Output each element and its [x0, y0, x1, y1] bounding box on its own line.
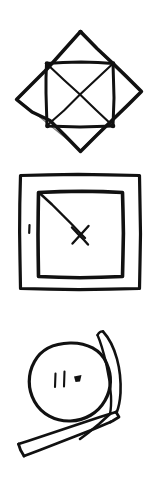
diagonal-line	[40, 194, 85, 239]
figure-diamond-with-inscribed-square: Diamond with inscribed square and crosse…	[0, 0, 158, 160]
figure-circle-with-banner: Circle with interior marks overlaid by a…	[0, 305, 158, 477]
circle-outline	[29, 343, 110, 421]
diamond-outline	[17, 32, 142, 152]
banner-sliver-tip	[98, 331, 104, 335]
interior-tick-left	[55, 374, 56, 388]
diamond-square-drawing	[0, 0, 158, 160]
diamond-apex-blot	[78, 30, 82, 34]
corner-blot-bottom-right	[111, 124, 116, 129]
interior-tick-right	[64, 372, 65, 387]
corner-blot-top-left	[45, 61, 50, 66]
diamond-outline-second-pass	[18, 33, 140, 150]
corner-blot-bottom-left	[45, 124, 50, 129]
figure-nested-squares-with-diagonal: Nested squares with diagonal and X mark	[0, 160, 158, 305]
interior-blob-mark	[74, 375, 82, 382]
banner-strip-left-end	[19, 444, 25, 456]
circle-banner-drawing	[0, 305, 158, 477]
corner-blot-top-right	[111, 61, 116, 66]
nested-squares-drawing	[0, 160, 158, 305]
sketch-page: Diamond with inscribed square and crosse…	[0, 0, 158, 477]
